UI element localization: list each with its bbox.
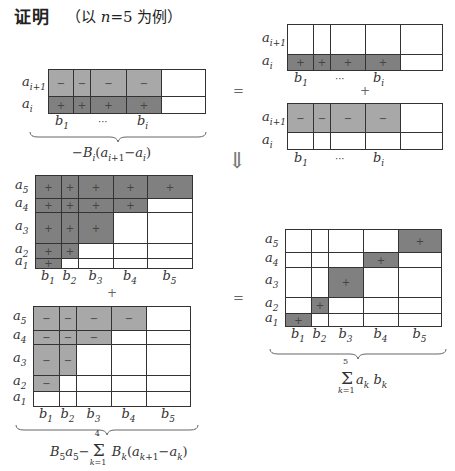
grid-cell <box>76 391 112 407</box>
column-label: b3 <box>89 268 103 286</box>
grid-cell: + <box>147 175 193 199</box>
grid-cell: − <box>313 103 331 133</box>
row-label: a1 <box>13 389 27 407</box>
grid-cell: + <box>113 198 148 213</box>
grid-cell: + <box>73 96 91 114</box>
row-label: a3 <box>15 218 29 236</box>
row-label: a4 <box>15 195 29 213</box>
underbrace-bottom-left <box>14 423 200 437</box>
grid-cell <box>311 252 329 268</box>
grid-cell: + <box>328 267 364 298</box>
grid-cell <box>400 24 443 55</box>
grid-cell <box>59 391 77 407</box>
row-label: a4 <box>13 327 27 345</box>
grid-cell <box>146 375 191 392</box>
grid-cell: + <box>35 212 62 244</box>
underbrace-right <box>268 347 448 361</box>
grid-cell <box>147 198 193 213</box>
grid-cell <box>161 96 206 114</box>
grid-cell <box>398 297 442 314</box>
equals-sign-top: = <box>233 83 244 98</box>
row-label: a1 <box>15 253 29 271</box>
column-label: b5 <box>163 268 177 286</box>
column-label: b1 <box>294 70 308 88</box>
grid-cell: + <box>126 96 162 114</box>
grid-cell <box>146 306 191 331</box>
grid-cell: + <box>78 175 114 199</box>
column-label: b5 <box>413 326 427 344</box>
grid-cell: + <box>330 54 366 71</box>
grid-cell <box>111 344 147 376</box>
grid-cell <box>311 229 329 253</box>
grid-cell <box>311 313 329 327</box>
grid-cell <box>285 297 312 314</box>
grid-cell <box>146 330 191 345</box>
grid-cell <box>398 313 442 327</box>
grid-cell: − <box>90 69 127 97</box>
column-label: b3 <box>339 326 353 344</box>
grid-cell: − <box>48 69 74 97</box>
column-label: bi <box>137 113 148 131</box>
grid-cell: − <box>33 344 60 376</box>
column-label: b2 <box>63 268 77 286</box>
grid-cell <box>146 391 191 407</box>
equals-sign-middle: = <box>233 290 244 305</box>
row-label: a4 <box>265 250 279 268</box>
grid-cell <box>146 344 191 376</box>
grid-cell <box>59 375 77 392</box>
grid-cell <box>363 267 399 298</box>
column-label: b1 <box>291 326 305 344</box>
grid-cell: + <box>313 54 331 71</box>
grid-cell: + <box>61 212 79 244</box>
grid-cell <box>33 391 60 407</box>
row-label: ai+1 <box>22 74 46 92</box>
proof-heading: 证明 <box>14 3 50 28</box>
grid-cell <box>363 229 399 253</box>
underbrace-top-left <box>28 130 208 144</box>
grid-cell <box>161 69 206 97</box>
grid-cell: + <box>48 96 74 114</box>
grid-cell: − <box>59 306 77 331</box>
grid-cell <box>313 132 331 150</box>
grid-cell <box>328 229 364 253</box>
column-label: bi <box>373 70 384 88</box>
plus-sign-middle: + <box>107 286 117 300</box>
grid-cell: − <box>59 344 77 376</box>
grid-cell: − <box>330 103 366 133</box>
grid-cell <box>328 252 364 268</box>
grid-cell: − <box>73 69 91 97</box>
formula-top-left: −Bi(ai+1−ai) <box>72 145 151 163</box>
row-label: a5 <box>265 231 279 249</box>
grid-cell: + <box>61 175 79 199</box>
column-label: bi <box>373 150 384 168</box>
grid-cell: + <box>61 243 79 259</box>
row-label: ai <box>262 53 273 71</box>
row-label: a5 <box>13 308 27 326</box>
grid-cell <box>285 229 312 253</box>
grid-cell: + <box>78 198 114 213</box>
grid-cell: + <box>35 243 62 259</box>
grid-cell <box>287 24 314 55</box>
grid-cell: − <box>111 306 147 331</box>
grid-cell: + <box>35 198 62 213</box>
proof-subtitle: （以 n=5 为例） <box>66 5 182 26</box>
grid-cell: + <box>90 96 127 114</box>
column-label: b1 <box>41 268 55 286</box>
column-label: b2 <box>61 406 75 424</box>
row-label: a1 <box>265 310 279 328</box>
column-label: ··· <box>335 70 345 85</box>
grid-cell: − <box>287 103 314 133</box>
column-label: b3 <box>87 406 101 424</box>
column-label: b1 <box>39 406 53 424</box>
grid-cell <box>330 24 366 55</box>
grid-cell <box>400 132 443 150</box>
grid-cell: − <box>365 103 401 133</box>
grid-cell <box>400 54 443 71</box>
grid-cell <box>76 375 112 392</box>
grid-cell <box>285 252 312 268</box>
grid-cell <box>78 243 114 259</box>
grid-cell: − <box>33 330 60 345</box>
grid-cell <box>111 375 147 392</box>
column-label: b4 <box>374 326 388 344</box>
grid-cell: + <box>365 54 401 71</box>
